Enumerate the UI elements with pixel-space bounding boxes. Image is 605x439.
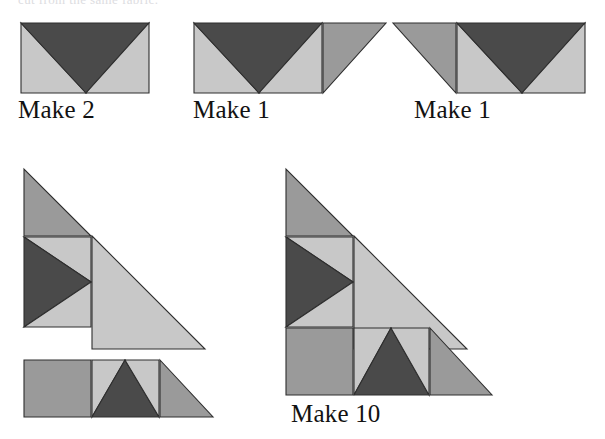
quilt-piecing-diagram: cut from the same fabric. Make 2Make 1Ma… [0, 0, 605, 439]
patch-strip-left-medium-square [24, 360, 91, 417]
patch-strip-right-medium-triangle [430, 328, 492, 395]
cropped-heading-text: cut from the same fabric. [18, 0, 438, 6]
unit-label-unit-flying-geese-right-corner: Make 1 [193, 96, 270, 124]
patch-corner-medium-triangle [393, 23, 456, 93]
flying-geese-with-right-corner-unit [193, 22, 387, 94]
patch-strip-right-medium-triangle [160, 360, 213, 417]
patch-large-light-triangle [92, 236, 205, 349]
patch-strip-left-medium-square [286, 328, 353, 395]
flying-geese-with-left-corner-unit [392, 22, 586, 94]
unit-label-unit-half-block-joined: Make 10 [291, 400, 381, 428]
half-block-exploded-unit [23, 168, 213, 418]
unit-label-unit-flying-geese-left-corner: Make 1 [414, 96, 491, 124]
flying-geese-unit [20, 22, 150, 94]
unit-label-unit-flying-geese-plain: Make 2 [18, 96, 95, 124]
half-block-joined-unit [285, 168, 493, 396]
patch-top-corner-medium-triangle [24, 169, 91, 236]
patch-top-corner-medium-triangle [286, 169, 353, 236]
patch-corner-medium-triangle [323, 23, 386, 93]
